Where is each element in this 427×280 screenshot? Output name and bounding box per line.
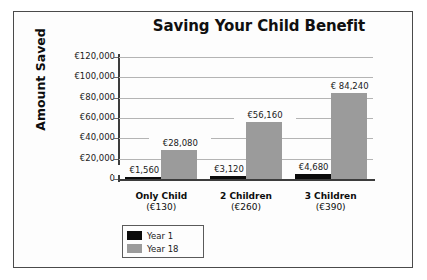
bar-year1 (295, 174, 331, 179)
legend-label: Year 1 (147, 231, 173, 241)
legend-label: Year 18 (147, 244, 179, 254)
y-axis-tick (114, 138, 118, 139)
legend-item[interactable]: Year 18 (127, 242, 199, 255)
y-axis-tick (114, 57, 118, 58)
legend-swatch-icon (127, 231, 142, 240)
y-axis-tick (114, 118, 118, 119)
legend-item[interactable]: Year 1 (127, 229, 199, 242)
y-axis-tick (114, 179, 118, 180)
bar-year18 (161, 150, 197, 179)
y-axis-tick-label: €20,000 (55, 153, 115, 163)
gridline (119, 57, 373, 58)
y-axis-tick-label: €80,000 (55, 92, 115, 102)
y-axis-tick (114, 77, 118, 78)
y-axis-tick-label: €40,000 (55, 132, 115, 142)
y-axis-tick-label: €60,000 (55, 112, 115, 122)
category-sublabel: (€130) (119, 202, 204, 213)
y-axis-tick-label: 0 (55, 173, 115, 183)
category-sublabel: (€260) (204, 202, 289, 213)
bar-year18 (246, 122, 282, 179)
bar-year1 (210, 176, 246, 179)
legend-swatch-icon (127, 244, 142, 253)
plot-area: €1,560€28,080€3,120€56,160€4,680€ 84,240 (119, 57, 373, 179)
chart-frame: Saving Your Child Benefit €120,000€100,0… (13, 11, 413, 268)
y-axis-tick-label: €120,000 (55, 51, 115, 61)
y-axis-tick (114, 98, 118, 99)
y-axis-tick-labels: €120,000€100,000€80,000€60,000€40,000€20… (53, 12, 115, 267)
bar-value-label: €28,080 (149, 138, 211, 148)
y-axis-tick-label: €100,000 (55, 71, 115, 81)
bar-year1 (125, 177, 161, 179)
chart-legend: Year 1Year 18 (122, 225, 204, 258)
bar-value-label: € 84,240 (319, 81, 381, 91)
chart-title: Saving Your Child Benefit (114, 17, 404, 35)
x-axis-category-label: Only Child(€130) (119, 191, 204, 213)
x-axis-category-label: 3 Children(€390) (288, 191, 373, 213)
x-axis-category-label: 2 Children(€260) (204, 191, 289, 213)
x-axis-line (118, 179, 375, 181)
category-name: Only Child (119, 191, 204, 202)
category-sublabel: (€390) (288, 202, 373, 213)
bar-year18 (331, 93, 367, 179)
category-name: 2 Children (204, 191, 289, 202)
gridline (119, 77, 373, 78)
y-axis-title: Amount Saved (33, 20, 48, 140)
category-name: 3 Children (288, 191, 373, 202)
bar-value-label: €56,160 (234, 110, 296, 120)
y-axis-tick (114, 159, 118, 160)
